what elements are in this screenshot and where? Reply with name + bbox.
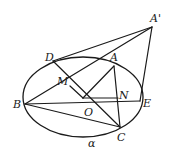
geometry-diagram: A'ADMONBEC α (0, 0, 170, 155)
plane-label-alpha: α (88, 137, 96, 150)
point-label-B: B (12, 98, 21, 111)
segment-D-Ap (53, 27, 152, 61)
segment-B-C (25, 104, 120, 127)
point-label-D: D (44, 51, 54, 64)
point-label-O: O (84, 106, 93, 119)
point-label-A: A (109, 51, 118, 64)
point-label-C: C (117, 131, 126, 144)
point-label-A-prime: A' (149, 12, 161, 25)
segment-A-O (83, 66, 114, 98)
point-label-M: M (56, 75, 69, 88)
point-label-N: N (118, 89, 129, 102)
segment-Ap-E (140, 27, 152, 101)
point-label-E: E (142, 97, 151, 110)
